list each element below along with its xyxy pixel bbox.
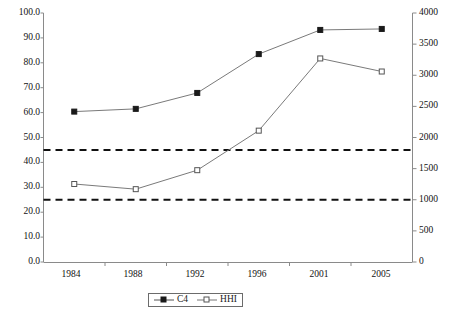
chart-container: 100.0 90.0 80.0 70.0 60.0 50.0 40.0 30.0… bbox=[0, 0, 450, 317]
chart-legend: C4 HHI bbox=[148, 293, 243, 307]
series-line-c4 bbox=[74, 29, 382, 112]
legend-item-c4: C4 bbox=[154, 295, 188, 305]
data-point-c4 bbox=[256, 52, 261, 57]
legend-label-c4: C4 bbox=[177, 295, 188, 305]
axes-group bbox=[44, 13, 413, 263]
plot-area bbox=[0, 0, 450, 317]
series-line-hhi bbox=[74, 58, 382, 189]
legend-label-hhi: HHI bbox=[220, 295, 237, 305]
data-point-hhi bbox=[318, 56, 323, 61]
data-point-c4 bbox=[133, 106, 138, 111]
data-point-c4 bbox=[195, 90, 200, 95]
data-point-hhi bbox=[256, 128, 261, 133]
data-point-c4 bbox=[72, 109, 77, 114]
data-point-hhi bbox=[379, 69, 384, 74]
data-point-c4 bbox=[379, 26, 384, 31]
series-group bbox=[72, 26, 385, 191]
legend-marker-filled-square-icon bbox=[154, 295, 174, 305]
data-point-hhi bbox=[195, 168, 200, 173]
reference-lines-group bbox=[44, 150, 413, 200]
data-point-hhi bbox=[72, 182, 77, 187]
legend-marker-open-square-icon bbox=[197, 295, 217, 305]
legend-item-hhi: HHI bbox=[197, 295, 237, 305]
data-point-hhi bbox=[133, 187, 138, 192]
data-point-c4 bbox=[318, 27, 323, 32]
right-axis-ticks bbox=[413, 13, 417, 262]
